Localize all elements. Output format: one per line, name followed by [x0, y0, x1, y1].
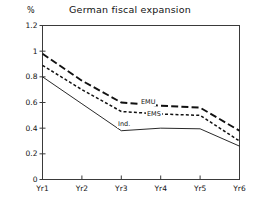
series-line-emu — [43, 54, 240, 131]
series-label-emu: EMU — [140, 99, 156, 106]
y-tick-label: 0.8 — [26, 72, 38, 81]
x-tick-label: Yr2 — [67, 184, 97, 193]
chart-figure: German fiscal expansion % 0 0.2 0.4 0.6 … — [0, 0, 260, 214]
plot-area — [0, 0, 260, 214]
series-label-ems: EMS — [146, 111, 162, 118]
x-tick-label: Yr1 — [28, 184, 58, 193]
y-tick-label: 1.2 — [26, 21, 38, 30]
x-tick-label: Yr4 — [146, 184, 176, 193]
y-tick-label: 1 — [33, 47, 38, 56]
y-tick-label: 0.2 — [26, 149, 38, 158]
series-label-ind: Ind. — [117, 121, 131, 128]
x-tick-label: Yr5 — [185, 184, 215, 193]
x-axis-ticks — [43, 176, 240, 180]
y-tick-label: 0.6 — [26, 98, 38, 107]
series-line-ind — [43, 77, 240, 146]
x-tick-label: Yr3 — [106, 184, 136, 193]
x-tick-label: Yr6 — [225, 184, 255, 193]
y-tick-label: 0.4 — [26, 124, 38, 133]
